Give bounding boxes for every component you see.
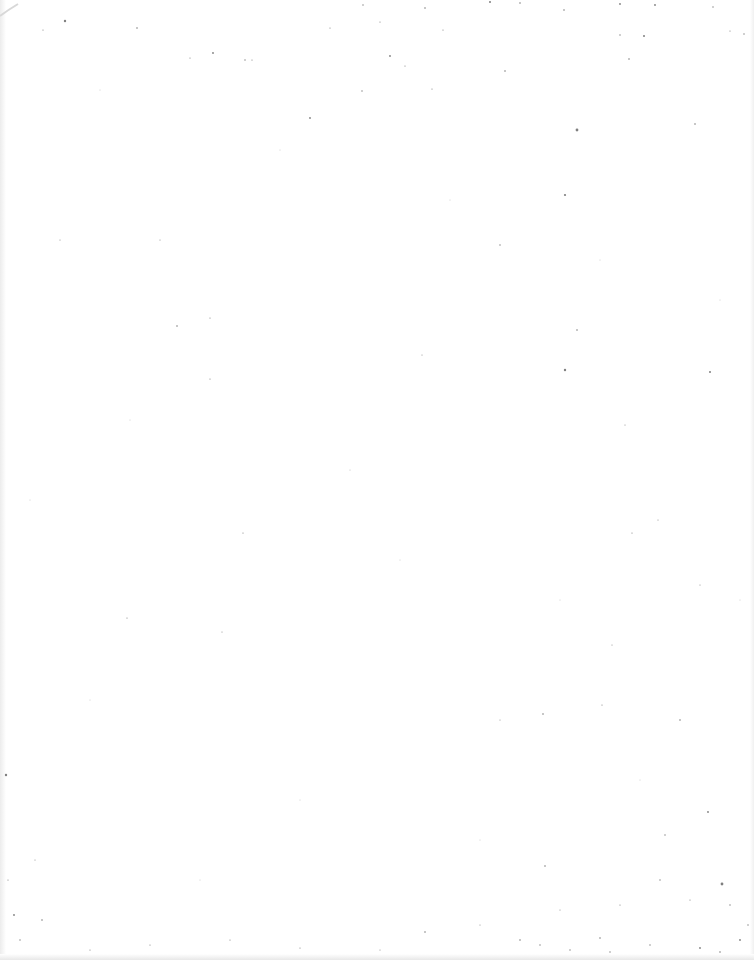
- blank-scanned-page: [0, 0, 754, 960]
- scan-speckle-noise: [0, 0, 754, 960]
